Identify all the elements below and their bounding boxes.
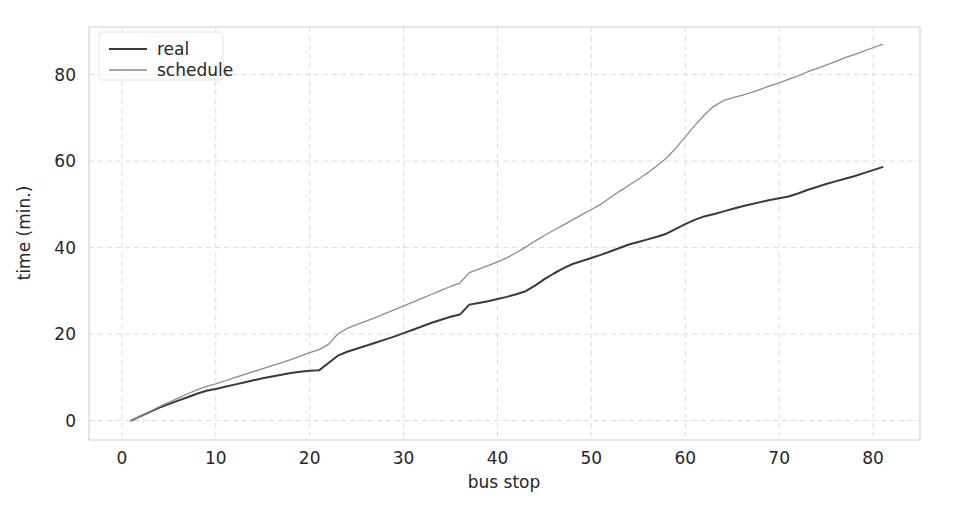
- y-tick-label: 20: [54, 324, 76, 344]
- x-tick-label: 20: [299, 448, 321, 468]
- legend[interactable]: real schedule: [99, 32, 233, 80]
- x-axis-title: bus stop: [468, 472, 541, 492]
- figure-canvas: 01020304050607080 020406080 bus stop tim…: [0, 0, 958, 507]
- x-tick-label: 50: [581, 448, 603, 468]
- x-tick-label: 60: [674, 448, 696, 468]
- x-tick-label: 0: [116, 448, 127, 468]
- y-tick-label: 80: [54, 65, 76, 85]
- x-tick-label: 70: [768, 448, 790, 468]
- legend-label-schedule: schedule: [157, 60, 233, 80]
- x-tick-label: 40: [487, 448, 509, 468]
- x-tick-label: 10: [205, 448, 227, 468]
- y-tick-label: 60: [54, 151, 76, 171]
- legend-label-real: real: [157, 39, 189, 59]
- x-tick-label: 30: [393, 448, 415, 468]
- y-axis-title: time (min.): [14, 186, 34, 281]
- x-tick-label: 80: [862, 448, 884, 468]
- line-chart: 01020304050607080 020406080 bus stop tim…: [0, 0, 958, 507]
- y-tick-label: 40: [54, 238, 76, 258]
- y-tick-label: 0: [65, 411, 76, 431]
